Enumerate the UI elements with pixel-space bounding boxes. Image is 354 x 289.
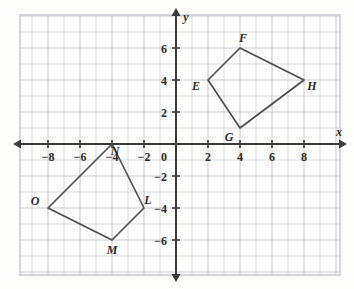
vertex-label-o: O (31, 194, 40, 208)
x-tick-label: 8 (301, 150, 307, 164)
vertex-label-h: H (306, 79, 317, 93)
y-axis-name: y (181, 10, 189, 24)
x-tick-label: −6 (74, 150, 87, 164)
vertex-label-e: E (191, 79, 200, 93)
coordinate-plane-svg: −8−6−4−22468642−2−4−60 xy EFHGNLMO (0, 0, 354, 289)
vertex-label-n: N (110, 144, 121, 158)
vertex-label-f: F (238, 31, 247, 45)
y-tick-label: 6 (161, 42, 167, 56)
coordinate-plane-figure: −8−6−4−22468642−2−4−60 xy EFHGNLMO (0, 0, 354, 289)
y-tick-label: −6 (154, 234, 167, 248)
y-tick-label: −4 (154, 202, 167, 216)
x-tick-label: −8 (42, 150, 55, 164)
y-tick-label: 4 (161, 74, 167, 88)
x-axis-arrow-right (339, 140, 347, 149)
x-tick-label: 2 (205, 150, 211, 164)
vertex-label-l: L (143, 193, 151, 207)
x-axis-name: x (335, 125, 342, 139)
y-tick-label: −2 (154, 170, 167, 184)
vertex-label-g: G (225, 130, 234, 144)
y-tick-label: 2 (161, 106, 167, 120)
x-tick-label: 6 (269, 150, 275, 164)
vertex-label-m: M (106, 243, 118, 257)
origin-label: 0 (161, 150, 167, 164)
x-axis-arrow-left (13, 140, 21, 149)
y-axis-arrow-up (172, 8, 181, 16)
x-tick-label: 4 (237, 150, 243, 164)
x-tick-label: −2 (138, 150, 151, 164)
y-axis-arrow-down (172, 274, 181, 282)
